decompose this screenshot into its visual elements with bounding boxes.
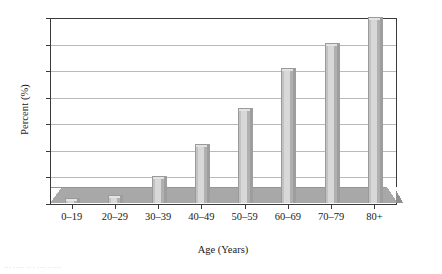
gridline — [51, 45, 396, 46]
plot-top-border — [50, 18, 397, 19]
bar — [108, 198, 121, 203]
x-axis-tick — [374, 205, 375, 209]
bar — [238, 111, 251, 203]
gridline — [51, 98, 396, 99]
plot-right-border — [396, 18, 397, 205]
chart-floor-left-bevel — [51, 188, 62, 203]
bar-chart: Percent (%) 02468101214 0–1920–2930–3940… — [0, 0, 442, 274]
plot-area: 02468101214 0–1920–2930–3940–4950–5960–6… — [50, 18, 396, 204]
y-axis-tick — [46, 98, 50, 99]
gridline — [51, 124, 396, 125]
chart-floor-top-edge — [51, 187, 396, 188]
x-axis-tick — [115, 205, 116, 209]
y-axis-tick — [46, 151, 50, 152]
y-axis-title: Percent (%) — [19, 40, 30, 180]
bar-side-face — [207, 144, 210, 203]
bar-side-face — [250, 108, 253, 203]
x-axis-line — [50, 204, 397, 205]
bar — [281, 71, 294, 203]
x-axis-tick-label: 80+ — [344, 212, 404, 223]
x-axis-tick — [72, 205, 73, 209]
bar-side-face — [337, 43, 340, 203]
chart-floor-right-edge — [396, 187, 405, 203]
gridline — [51, 71, 396, 72]
bar — [325, 46, 338, 203]
gridline — [51, 151, 396, 152]
bar — [368, 20, 381, 203]
y-axis-tick — [46, 71, 50, 72]
y-axis-tick — [46, 18, 50, 19]
x-axis-tick — [201, 205, 202, 209]
bar — [152, 179, 165, 203]
x-axis-tick — [158, 205, 159, 209]
bar-side-face — [120, 195, 123, 203]
x-axis-tick — [245, 205, 246, 209]
bar — [195, 147, 208, 203]
bar-side-face — [77, 198, 80, 203]
y-axis-tick — [46, 204, 50, 205]
x-axis-tick — [331, 205, 332, 209]
bar-side-face — [380, 17, 383, 203]
chart-floor — [51, 188, 396, 203]
x-axis-title: Age (Years) — [50, 244, 396, 255]
gridline — [51, 177, 396, 178]
y-axis-tick — [46, 124, 50, 125]
bar-side-face — [164, 176, 167, 203]
x-axis-tick — [288, 205, 289, 209]
bar — [65, 201, 78, 203]
y-axis-tick — [46, 45, 50, 46]
y-axis-tick — [46, 177, 50, 178]
figure-caption-fragment: ··· ····· ·· · ···· · ···· — [4, 264, 304, 273]
bar-side-face — [293, 68, 296, 203]
